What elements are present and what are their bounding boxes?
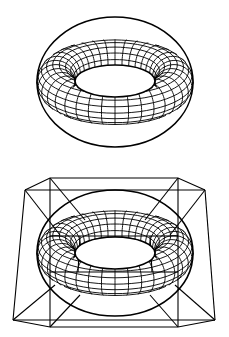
torus-wireframe-bottom (37, 190, 193, 316)
torus-wireframe-top (37, 17, 193, 147)
figure-canvas (0, 0, 229, 337)
